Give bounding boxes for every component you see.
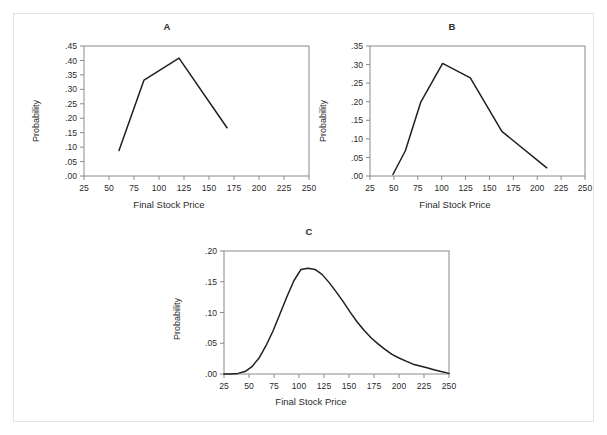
chart-a-xlabel: Final Stock Price — [44, 199, 294, 210]
svg-text:.30: .30 — [65, 84, 77, 94]
svg-text:125: 125 — [458, 183, 473, 193]
svg-text:.05: .05 — [205, 338, 217, 348]
svg-text:.05: .05 — [351, 153, 363, 163]
svg-text:100: 100 — [434, 183, 449, 193]
svg-text:25: 25 — [219, 381, 229, 391]
svg-text:.30: .30 — [351, 60, 363, 70]
svg-text:.45: .45 — [65, 41, 77, 51]
chart-panel-c: C Probability .00.05.10.15.2025507510012… — [164, 226, 454, 418]
svg-text:.25: .25 — [351, 78, 363, 88]
svg-text:125: 125 — [177, 183, 192, 193]
chart-c-xlabel: Final Stock Price — [186, 396, 436, 407]
svg-text:.00: .00 — [205, 369, 217, 379]
svg-text:175: 175 — [506, 183, 521, 193]
svg-text:.10: .10 — [205, 308, 217, 318]
svg-text:.20: .20 — [65, 113, 77, 123]
svg-text:200: 200 — [252, 183, 267, 193]
svg-text:100: 100 — [152, 183, 167, 193]
svg-text:50: 50 — [389, 183, 399, 193]
svg-text:225: 225 — [554, 183, 569, 193]
svg-text:175: 175 — [227, 183, 242, 193]
svg-text:250: 250 — [442, 381, 457, 391]
svg-text:225: 225 — [277, 183, 292, 193]
svg-text:125: 125 — [317, 381, 332, 391]
chart-c-plot: .00.05.10.15.202550751001251501752002252… — [164, 226, 454, 418]
svg-text:200: 200 — [392, 381, 407, 391]
svg-text:150: 150 — [202, 183, 217, 193]
svg-text:.20: .20 — [351, 97, 363, 107]
svg-text:.10: .10 — [65, 142, 77, 152]
svg-text:.00: .00 — [65, 171, 77, 181]
svg-text:100: 100 — [292, 381, 307, 391]
svg-text:.40: .40 — [65, 56, 77, 66]
svg-text:.05: .05 — [65, 157, 77, 167]
svg-text:75: 75 — [413, 183, 423, 193]
page-root: A Probability .00.05.10.15.20.25.30.35.4… — [0, 0, 607, 435]
svg-text:50: 50 — [244, 381, 254, 391]
svg-text:25: 25 — [365, 183, 375, 193]
chart-panel-b: B Probability .00.05.10.15.20.25.30.3525… — [312, 21, 592, 221]
svg-text:.25: .25 — [65, 99, 77, 109]
svg-text:.20: .20 — [205, 246, 217, 256]
svg-text:175: 175 — [367, 381, 382, 391]
chart-panel-a: A Probability .00.05.10.15.20.25.30.35.4… — [22, 21, 312, 221]
figure-frame: A Probability .00.05.10.15.20.25.30.35.4… — [13, 13, 594, 422]
chart-b-plot: .00.05.10.15.20.25.30.352550751001251501… — [312, 21, 592, 221]
svg-text:.15: .15 — [65, 128, 77, 138]
svg-text:.35: .35 — [351, 41, 363, 51]
svg-text:.35: .35 — [65, 70, 77, 80]
svg-text:.10: .10 — [351, 134, 363, 144]
svg-text:225: 225 — [417, 381, 432, 391]
chart-a-plot: .00.05.10.15.20.25.30.35.40.452550751001… — [22, 21, 312, 221]
svg-text:250: 250 — [578, 183, 593, 193]
svg-text:150: 150 — [342, 381, 357, 391]
chart-b-xlabel: Final Stock Price — [330, 199, 580, 210]
svg-text:.15: .15 — [351, 115, 363, 125]
svg-text:.00: .00 — [351, 171, 363, 181]
svg-text:75: 75 — [129, 183, 139, 193]
svg-text:75: 75 — [269, 381, 279, 391]
svg-text:200: 200 — [530, 183, 545, 193]
svg-text:150: 150 — [482, 183, 497, 193]
svg-text:50: 50 — [104, 183, 114, 193]
svg-text:25: 25 — [79, 183, 89, 193]
svg-text:.15: .15 — [205, 277, 217, 287]
